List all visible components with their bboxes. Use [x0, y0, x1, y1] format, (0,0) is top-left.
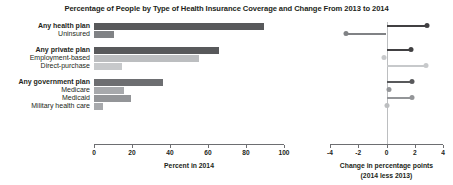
axis-tick [94, 145, 95, 148]
change-stem [387, 49, 411, 51]
axis-tick [358, 145, 359, 148]
axis-tick-label: 80 [242, 149, 249, 156]
left-axis-line [94, 144, 284, 145]
bar [94, 95, 131, 102]
change-dot [408, 47, 413, 52]
change-row [330, 46, 443, 54]
axis-tick [330, 145, 331, 148]
category-label: Medicaid [0, 94, 93, 102]
change-dot [424, 63, 429, 68]
change-row [330, 86, 443, 94]
axis-tick [443, 145, 444, 148]
bar [94, 103, 103, 110]
group-spacer [0, 38, 93, 46]
bar-row [94, 94, 284, 102]
axis-tick-label: 0 [385, 149, 389, 156]
bar-panel [94, 22, 284, 144]
axis-tick-label: 40 [166, 149, 173, 156]
axis-tick-label: 60 [204, 149, 211, 156]
right-axis-label-line2: (2014 less 2013) [320, 172, 453, 179]
bar-row [94, 22, 284, 30]
change-row [330, 54, 443, 62]
category-label-column: Any health planUninsuredAny private plan… [0, 22, 93, 110]
bar [94, 63, 122, 70]
change-dot [409, 79, 414, 84]
change-row [330, 102, 443, 110]
chart-root: Percentage of People by Type of Health I… [0, 0, 453, 185]
category-label: Any private plan [0, 46, 93, 54]
axis-tick-label: -4 [327, 149, 333, 156]
change-stem [387, 65, 427, 67]
change-row [330, 30, 443, 38]
change-stem [387, 25, 428, 27]
axis-tick-label: 4 [441, 149, 445, 156]
category-label: Any health plan [0, 22, 93, 30]
change-dot [425, 23, 430, 28]
category-label: Employment-based [0, 54, 93, 62]
axis-tick [132, 145, 133, 148]
right-axis-label-line1: Change in percentage points [320, 162, 453, 169]
bar [94, 47, 219, 54]
change-stem [387, 97, 412, 99]
bar [94, 87, 124, 94]
axis-tick [208, 145, 209, 148]
bar-row [94, 86, 284, 94]
dot-rows [330, 22, 443, 110]
axis-tick-label: 100 [278, 149, 289, 156]
change-row [330, 22, 443, 30]
bar [94, 31, 114, 38]
bar-row [94, 62, 284, 70]
change-row [330, 94, 443, 102]
bar-row [94, 102, 284, 110]
change-stem [387, 81, 412, 83]
axis-tick-label: 0 [92, 149, 96, 156]
axis-tick-label: 20 [128, 149, 135, 156]
bar-row [94, 78, 284, 86]
change-dot [387, 87, 392, 92]
category-label: Direct-purchase [0, 62, 93, 70]
axis-tick [284, 145, 285, 148]
change-dot [384, 103, 389, 108]
axis-tick [415, 145, 416, 148]
axis-tick-label: 2 [413, 149, 417, 156]
group-spacer [0, 70, 93, 78]
axis-tick [246, 145, 247, 148]
change-dot [409, 95, 414, 100]
change-panel [330, 22, 443, 144]
bar-row [94, 54, 284, 62]
bar [94, 55, 199, 62]
bar [94, 79, 163, 86]
category-label: Medicare [0, 86, 93, 94]
axis-tick [170, 145, 171, 148]
category-label: Any government plan [0, 78, 93, 86]
change-row [330, 78, 443, 86]
group-spacer [94, 38, 284, 46]
change-dot [381, 55, 386, 60]
group-spacer [330, 70, 443, 78]
group-spacer [330, 38, 443, 46]
change-row [330, 62, 443, 70]
bar-rows [94, 22, 284, 110]
change-dot [343, 31, 348, 36]
group-spacer [94, 70, 284, 78]
bar-row [94, 46, 284, 54]
left-axis-label: Percent in 2014 [94, 162, 284, 169]
bar-row [94, 30, 284, 38]
axis-tick-label: -2 [355, 149, 361, 156]
change-stem [346, 33, 387, 35]
chart-title: Percentage of People by Type of Health I… [0, 4, 453, 13]
category-label: Military health care [0, 102, 93, 110]
category-label: Uninsured [0, 30, 93, 38]
axis-tick [387, 145, 388, 148]
bar [94, 23, 264, 30]
